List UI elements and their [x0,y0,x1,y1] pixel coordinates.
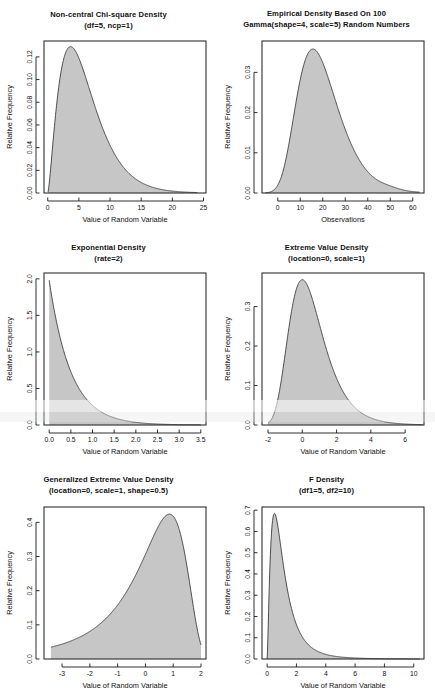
y-tick-label: 0.5 [244,548,251,558]
x-tick-label: 60 [408,204,416,211]
x-axis-label: Observations [321,215,365,224]
x-tick-label: -2 [87,670,93,677]
panel-title: Generalized Extreme Value Density [44,475,175,484]
x-tick-label: 4 [368,436,372,443]
x-tick-label: 3.5 [196,436,206,443]
x-tick-label: 1 [171,670,175,677]
panel-title: F Density [308,475,344,484]
x-tick-label: 0 [275,204,279,211]
y-tick-label: 0.1 [244,380,251,390]
y-tick-label: 0.3 [26,552,33,562]
y-axis-label: Relative Frequency [223,317,232,381]
x-tick-label: 0 [265,670,269,677]
y-tick-label: 0.1 [244,633,251,643]
x-axis-label: Value of Random Variable [82,215,167,224]
y-tick-label: 0.2 [26,586,33,596]
density-panel-1: Non-central Chi-square Density(df=5, ncp… [0,0,217,232]
x-tick-label: 0 [300,436,304,443]
density-plot-grid: Non-central Chi-square Density(df=5, ncp… [0,0,435,698]
x-tick-label: 10 [296,204,304,211]
y-tick-label: 0.7 [244,506,251,516]
density-area [268,279,422,424]
x-tick-label: -3 [59,670,65,677]
y-tick-label: 0.08 [26,95,33,108]
x-axis-label: Value of Random Variable [82,681,167,690]
x-tick-label: 10 [409,670,417,677]
x-tick-label: 2.5 [153,436,163,443]
x-axis-label: Value of Random Variable [300,447,385,456]
x-tick-label: 15 [137,204,145,211]
density-panel-6: F Density(df1=5, df2=10)0246810Value of … [218,465,435,697]
y-tick-label: 0.02 [244,106,251,119]
x-axis-label: Value of Random Variable [82,447,167,456]
x-tick-label: 0 [46,204,50,211]
x-tick-label: 1.5 [109,436,119,443]
x-tick-label: 2.0 [131,436,141,443]
x-tick-label: 0.5 [66,436,76,443]
y-axis-label: Relative Frequency [5,85,14,149]
y-tick-label: 0.0 [26,654,33,664]
x-tick-label: -2 [264,436,270,443]
y-axis-label: Relative Frequency [5,317,14,381]
y-tick-label: 0.10 [26,73,33,86]
y-tick-label: 0.03 [244,66,251,79]
y-tick-label: 0.4 [244,569,251,579]
x-tick-label: 20 [318,204,326,211]
x-tick-label: 30 [341,204,349,211]
x-tick-label: 2 [294,670,298,677]
panel-title: Non-central Chi-square Density [50,10,167,19]
y-tick-label: 0.12 [26,50,33,63]
y-tick-label: 0.1 [26,620,33,630]
panel-subtitle: (location=0, scale=1) [288,254,365,263]
y-tick-label: 0.6 [244,527,251,537]
y-tick-label: 0.3 [244,591,251,601]
y-tick-label: 0.2 [244,341,251,351]
y-tick-label: 0.5 [26,383,33,393]
y-tick-label: 0.01 [244,146,251,159]
x-tick-label: 2 [334,436,338,443]
density-area [49,280,201,425]
panel-subtitle: (df=5, ncp=1) [84,21,133,30]
x-tick-label: 2 [199,670,203,677]
y-tick-label: 1.5 [26,310,33,320]
panel-subtitle: Gamma(shape=4, scale=5) Random Numbers [243,20,410,29]
y-tick-label: 0.0 [244,654,251,664]
x-tick-label: 0.0 [44,436,54,443]
y-tick-label: 0.06 [26,118,33,131]
panel-subtitle: (location=0, scale=1, shape=0.5) [49,486,168,495]
y-axis-label: Relative Frequency [5,551,14,615]
y-tick-label: 0.00 [26,186,33,199]
panel-subtitle: (df1=5, df2=10) [298,486,353,495]
x-tick-label: 4 [323,670,327,677]
x-tick-label: 6 [403,436,407,443]
density-area [51,514,201,659]
y-tick-label: 0.02 [26,163,33,176]
density-panel-5: Generalized Extreme Value Density(locati… [0,465,217,697]
y-axis-label: Relative Frequency [223,85,232,149]
x-tick-label: 1.0 [88,436,98,443]
x-tick-label: 0 [144,670,148,677]
x-tick-label: 8 [382,670,386,677]
density-panel-2: Empirical Density Based On 100Gamma(shap… [218,0,435,232]
y-tick-label: 0.0 [26,420,33,430]
density-panel-4: Extreme Value Density(location=0, scale=… [218,233,435,465]
x-tick-label: 10 [106,204,114,211]
y-tick-label: 0.00 [244,186,251,199]
y-tick-label: 0.4 [26,518,33,528]
x-tick-label: 25 [200,204,208,211]
x-tick-label: 6 [353,670,357,677]
panel-title: Empirical Density Based On 100 [266,9,385,18]
y-tick-label: 0.04 [26,141,33,154]
x-axis-label: Value of Random Variable [300,681,385,690]
y-tick-label: 1.0 [26,347,33,357]
x-tick-label: 3.0 [174,436,184,443]
density-area [48,47,197,193]
x-tick-label: 5 [77,204,81,211]
panel-subtitle: (rate=2) [94,254,123,263]
x-tick-label: 40 [363,204,371,211]
panel-title: Exponential Density [71,243,146,252]
y-tick-label: 0.2 [244,612,251,622]
x-tick-label: -1 [115,670,121,677]
density-area [267,514,419,660]
y-tick-label: 0.3 [244,301,251,311]
